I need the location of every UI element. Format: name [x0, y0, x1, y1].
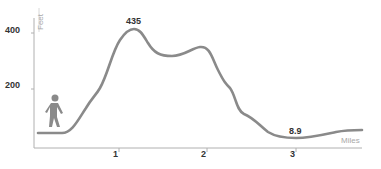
y-tick-label-200: 200 [5, 81, 20, 90]
x-axis-title: Miles [341, 137, 360, 145]
x-tick-label-1: 1 [113, 150, 118, 159]
x-tick-label-3: 3 [290, 150, 295, 159]
y-tick-label-400: 400 [5, 26, 20, 35]
elevation-chart [0, 0, 381, 169]
elevation-line [38, 29, 362, 138]
hiker-icon [45, 95, 63, 128]
y-axis-title: Feet [37, 14, 45, 30]
low-annotation: 8.9 [289, 127, 302, 136]
x-tick-label-2: 2 [201, 150, 206, 159]
peak-annotation: 435 [126, 17, 141, 26]
